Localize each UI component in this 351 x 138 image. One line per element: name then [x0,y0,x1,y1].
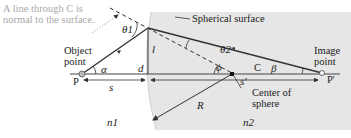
R-symbol: R [197,100,204,111]
center-of-sphere-label: Center of sphere [252,87,291,109]
image-point-label-line2: point [314,56,340,67]
alpha-symbol: α [101,64,107,75]
n1-symbol: n1 [107,117,118,128]
annotation-line-1: A line through C is [3,3,95,14]
point-P-label: P [73,76,79,87]
image-point-marker [320,71,325,76]
theta1-symbol: θ1 [122,24,133,35]
alpha-arc [93,66,96,74]
object-point-marker [79,71,85,77]
s-prime-symbol: s' [240,76,247,87]
point-P-prime-label: P' [327,74,335,85]
object-point-label-line1: Object [64,45,92,56]
center-C-label: C [254,62,261,73]
phi-symbol: ϕ [216,62,222,73]
l-symbol: l [152,44,155,55]
image-point-label-line1: Image [314,45,340,56]
annotation-pointer [92,15,118,33]
theta2-symbol: θ2 [220,44,231,55]
normal-annotation: A line through C is normal to the surfac… [3,3,95,25]
spherical-surface-label: Spherical surface [192,13,265,24]
annotation-line-2: normal to the surface. [3,14,95,25]
beta-symbol: β [271,63,276,74]
center-label-line1: Center of [252,87,291,98]
s-symbol: s [109,82,113,93]
center-point-marker [230,72,234,76]
center-label-line2: sphere [252,98,291,109]
image-point-label: Image point [314,45,340,67]
object-point-label-line2: point [64,56,92,67]
object-point-label: Object point [64,45,92,67]
d-symbol: d [138,63,144,74]
refraction-spherical-surface-diagram: A line through C is normal to the surfac… [0,0,351,138]
n2-symbol: n2 [243,117,254,128]
